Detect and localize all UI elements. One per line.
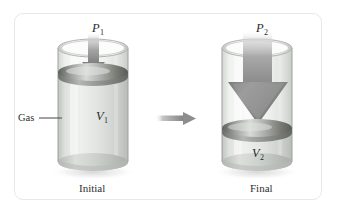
transition-arrow [155, 112, 196, 125]
label-pressure-initial: P1 [92, 22, 104, 35]
label-volume-initial: V1 [96, 110, 108, 123]
piston-right [222, 119, 292, 142]
caption-final: Final [250, 183, 273, 194]
label-volume-final: V2 [252, 147, 264, 160]
panel-initial [39, 32, 137, 180]
piston-left [58, 63, 128, 86]
caption-initial: Initial [79, 183, 105, 194]
diagram-illustration [0, 0, 337, 215]
label-gas: Gas [18, 113, 34, 124]
label-pressure-final: P2 [256, 22, 268, 35]
figure-canvas: P1 P2 V1 V2 Gas Initial Final [0, 0, 337, 215]
